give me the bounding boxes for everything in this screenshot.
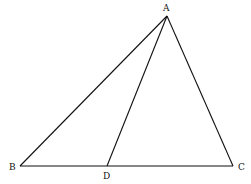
segment-ab <box>20 16 167 166</box>
label-a: A <box>162 3 170 13</box>
label-d: D <box>103 171 110 181</box>
triangle-diagram: A B C D <box>0 0 251 184</box>
segment-ac <box>167 16 233 166</box>
segment-ad <box>107 16 167 166</box>
label-c: C <box>238 162 245 172</box>
label-b: B <box>9 162 16 172</box>
